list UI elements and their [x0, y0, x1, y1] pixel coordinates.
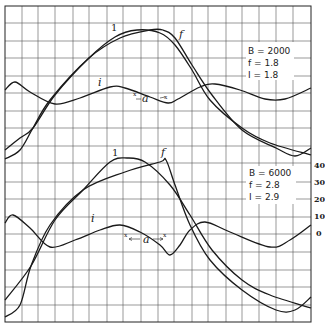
- tick-10: 10: [314, 211, 325, 221]
- marker-top-x-right: x: [164, 93, 168, 100]
- tick-20: 20: [314, 194, 325, 204]
- legend-top-i: I = 1.8: [248, 70, 279, 80]
- label-bottom-1: 1: [112, 147, 118, 158]
- legend-bottom-f: f = 2.8: [249, 180, 280, 190]
- label-top-a: a: [142, 92, 149, 105]
- label-top-i: i: [98, 76, 102, 89]
- label-top-1: 1: [111, 22, 117, 33]
- marker-bottom-x-left: x: [124, 231, 128, 238]
- label-bottom-a: a: [143, 233, 150, 246]
- legend-bottom-b: B = 6000: [249, 168, 292, 178]
- marker-bottom-x-right: x: [163, 231, 167, 238]
- tick-30: 30: [314, 177, 325, 187]
- legend-top-b: B = 2000: [248, 46, 291, 56]
- legend-bottom-i: I = 2.9: [249, 192, 280, 202]
- legend-top-f: f = 1.8: [248, 58, 279, 68]
- tick-40: 40: [314, 160, 325, 170]
- label-top-f: f: [178, 28, 185, 41]
- marker-top-x-left: x: [133, 90, 137, 97]
- tick-0: 0: [316, 228, 322, 238]
- chart-figure: B = 2000 f = 1.8 I = 1.8 B = 6000 f = 2.…: [0, 0, 325, 328]
- label-bottom-f: f: [160, 146, 167, 159]
- label-bottom-i: i: [91, 212, 95, 225]
